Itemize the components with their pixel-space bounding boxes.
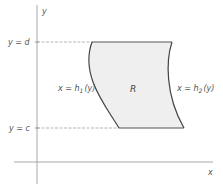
right-boundary-label: x = h2(y)	[176, 84, 214, 94]
right-boundary-text: x = h	[176, 84, 199, 93]
region-label: R	[130, 84, 136, 94]
y-axis-label: y	[41, 7, 47, 16]
region-diagram: y x y = d y = c R x = h1(y) x = h2(y)	[0, 0, 223, 193]
right-boundary-subscript: 2	[199, 87, 203, 94]
label-y-equals-d: y = d	[7, 38, 31, 47]
x-axis-label: x	[207, 168, 213, 177]
left-boundary-text: x = h	[57, 84, 80, 93]
right-boundary-arg: (y)	[203, 84, 214, 93]
label-y-equals-c: y = c	[8, 124, 31, 133]
left-boundary-arg: (y)	[84, 84, 95, 93]
left-boundary-label: x = h1(y)	[57, 84, 95, 94]
left-boundary-subscript: 1	[80, 87, 84, 94]
